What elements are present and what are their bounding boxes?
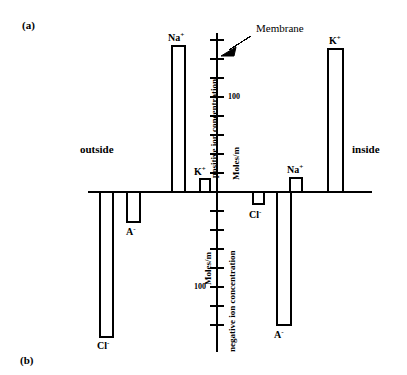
axis-title-negative: negative ion concentration	[228, 251, 237, 353]
bar-inside-a	[277, 192, 291, 325]
bar-label-inside-na: Na+	[287, 164, 303, 175]
bar-label-outside-a-charge: -	[133, 225, 135, 233]
bar-label-outside-a: A-	[126, 226, 136, 237]
membrane-arrow-head	[221, 47, 236, 56]
inside-label: inside	[352, 144, 380, 155]
bar-inside-cl	[253, 192, 264, 204]
axis-units-bottom: Moles/m	[204, 252, 213, 285]
bar-label-outside-cl: Cl-	[97, 340, 109, 351]
axis-units-top: Moles/m	[232, 147, 241, 180]
bar-label-inside-k: K+	[329, 35, 341, 46]
axis-title-positive: positive ion concentration	[210, 79, 219, 178]
bar-outside-na	[172, 46, 185, 192]
bar-inside-k	[328, 49, 343, 192]
bar-label-outside-cl-text: Cl	[97, 340, 107, 351]
bar-label-outside-k: K+	[194, 166, 206, 177]
bar-label-inside-cl-text: Cl	[249, 209, 259, 220]
bar-outside-a	[127, 192, 140, 222]
bar-outside-k	[200, 179, 210, 192]
bar-label-outside-na: Na+	[168, 32, 184, 43]
bar-label-outside-na-charge: +	[180, 31, 184, 39]
figure-container: (a) (b) Membrane outside inside positive…	[0, 0, 407, 375]
bar-label-inside-cl-charge: -	[259, 208, 261, 216]
bar-label-outside-k-charge: +	[202, 165, 206, 173]
membrane-label: Membrane	[256, 23, 304, 34]
bar-outside-cl	[100, 192, 113, 337]
bar-label-outside-na-text: Na	[168, 32, 180, 43]
outside-label: outside	[80, 144, 114, 155]
bar-label-inside-k-charge: +	[337, 34, 341, 42]
bar-label-inside-na-charge: +	[299, 163, 303, 171]
bar-label-inside-k-text: K	[329, 35, 337, 46]
bar-label-outside-cl-charge: -	[107, 339, 109, 347]
axis-tick-label-top-100: 100	[228, 93, 240, 101]
bar-inside-na	[290, 178, 302, 192]
bar-label-inside-a: A-	[274, 329, 284, 340]
panel-a-label: (a)	[22, 20, 35, 31]
diagram-canvas	[0, 0, 407, 375]
bar-label-inside-a-charge: -	[281, 328, 283, 336]
bar-label-outside-k-text: K	[194, 166, 202, 177]
panel-b-label: (b)	[20, 355, 33, 366]
membrane-arrow-shaft	[229, 36, 251, 50]
bar-label-inside-cl: Cl-	[249, 209, 261, 220]
axis-tick-label-bottom-100: 100	[194, 283, 206, 291]
bar-label-inside-na-text: Na	[287, 164, 299, 175]
